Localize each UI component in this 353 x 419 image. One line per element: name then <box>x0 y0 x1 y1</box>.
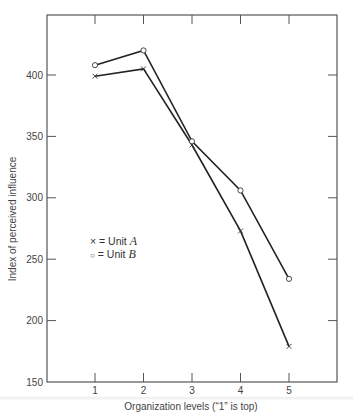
circle-marker-icon <box>141 48 146 53</box>
circle-marker-icon <box>189 139 194 144</box>
x-tick-label: 3 <box>189 385 195 396</box>
plot-border <box>47 15 337 382</box>
legend: × = Unit A ○ = Unit B <box>90 234 138 261</box>
y-axis-ticks: 150200250300350400 <box>26 70 337 388</box>
x-tick-label: 5 <box>286 385 292 396</box>
y-tick-label: 400 <box>26 70 43 81</box>
legend-item-unit-a: × = Unit A <box>90 234 138 248</box>
y-tick-label: 200 <box>26 315 43 326</box>
circle-marker-icon <box>92 63 97 68</box>
x-axis-title: Organization levels (“1” is top) <box>124 401 257 412</box>
y-tick-label: 350 <box>26 131 43 142</box>
x-tick-label: 4 <box>238 385 244 396</box>
x-tick-label: 1 <box>92 385 98 396</box>
plot-frame <box>47 15 337 382</box>
circle-marker-icon <box>286 276 291 281</box>
y-tick-label: 250 <box>26 254 43 265</box>
line-chart: 150200250300350400 12345 Index of percei… <box>0 0 353 419</box>
y-tick-label: 150 <box>26 377 43 388</box>
legend-item-unit-b: ○ = Unit B <box>90 247 136 261</box>
data-series <box>92 48 291 349</box>
series-unit-a <box>93 66 292 348</box>
x-tick-label: 2 <box>141 385 147 396</box>
circle-marker-icon <box>238 188 243 193</box>
y-axis-title: Index of perceived influence <box>7 156 18 281</box>
y-tick-label: 300 <box>26 192 43 203</box>
